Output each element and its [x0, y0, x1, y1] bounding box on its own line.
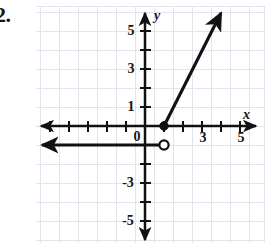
- x-tick-label-3: 3: [196, 131, 210, 145]
- closed-point-marker: [160, 122, 168, 130]
- x-axis: [41, 121, 256, 132]
- rising-ray: [164, 13, 221, 126]
- x-tick-label-5: 5: [234, 131, 248, 145]
- x-axis-label: x: [243, 108, 250, 122]
- origin-label: 0: [130, 130, 144, 144]
- y-tick-label-neg5: -5: [118, 214, 138, 228]
- y-axis-label: y: [154, 9, 160, 23]
- y-tick-label-neg3: -3: [118, 176, 138, 190]
- y-tick-label-1: 1: [124, 100, 138, 114]
- y-tick-label-5: 5: [124, 24, 138, 38]
- open-point-marker: [159, 140, 168, 149]
- y-tick-label-3: 3: [124, 62, 138, 76]
- graph-figure: 2.: [0, 0, 267, 247]
